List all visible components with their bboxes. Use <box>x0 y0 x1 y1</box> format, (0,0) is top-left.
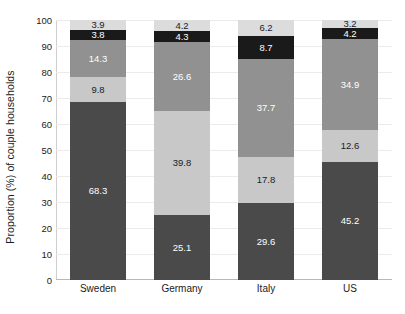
y-axis-tick-label: 100 <box>26 15 52 26</box>
bar-segment-value-label: 12.6 <box>341 141 360 151</box>
bar-segment-value-label: 3.9 <box>91 20 104 30</box>
bar-segment[interactable]: 3.2 <box>322 20 378 28</box>
y-axis-tick-label: 10 <box>26 249 52 260</box>
y-axis-tick-label: 80 <box>26 67 52 78</box>
bar-segment-value-label: 37.7 <box>257 103 276 113</box>
bar-segment-value-label: 25.1 <box>173 243 192 253</box>
bar-segment-value-label: 39.8 <box>173 158 192 168</box>
bar-segment[interactable]: 3.8 <box>70 30 126 40</box>
bar-segment-value-label: 4.3 <box>175 32 188 42</box>
y-axis-tick-label: 40 <box>26 171 52 182</box>
y-axis-tick-label: 90 <box>26 41 52 52</box>
bar-segment[interactable]: 14.3 <box>70 40 126 77</box>
plot-area: 68.39.814.33.83.925.139.826.64.34.229.61… <box>56 20 392 280</box>
bar-segment[interactable]: 37.7 <box>238 59 294 157</box>
y-axis-tick-label: 50 <box>26 145 52 156</box>
bar-segment[interactable]: 4.2 <box>154 20 210 31</box>
x-axis-tick-labels: SwedenGermanyItalyUS <box>56 283 392 301</box>
bar-segment-value-label: 34.9 <box>341 80 360 90</box>
bar-segment[interactable]: 4.3 <box>154 31 210 42</box>
y-axis-tick-label: 70 <box>26 93 52 104</box>
bar-segment-value-label: 8.7 <box>259 43 272 53</box>
stacked-bar-chart: Proportion (%) of couple households 0102… <box>0 0 405 314</box>
bar-segment[interactable]: 4.2 <box>322 28 378 39</box>
bar-segment-value-label: 14.3 <box>89 54 108 64</box>
bar-segment-value-label: 45.2 <box>341 216 360 226</box>
bar-segment[interactable]: 12.6 <box>322 130 378 163</box>
y-axis-tick-label: 0 <box>26 275 52 286</box>
x-axis-tick-label: Italy <box>257 283 275 294</box>
bar-segment[interactable]: 17.8 <box>238 157 294 203</box>
bar-segment-value-label: 4.2 <box>343 29 356 39</box>
bar-segment-value-label: 9.8 <box>91 85 104 95</box>
bar-series-container: 68.39.814.33.83.925.139.826.64.34.229.61… <box>56 20 392 280</box>
bar-segment-value-label: 29.6 <box>257 237 276 247</box>
x-axis-tick-label: Sweden <box>80 283 116 294</box>
bar-segment-value-label: 3.8 <box>91 30 104 40</box>
y-axis-tick-label: 30 <box>26 197 52 208</box>
x-axis-tick-label: Germany <box>161 283 202 294</box>
bar-group[interactable]: 25.139.826.64.34.2 <box>154 20 210 280</box>
bar-segment-value-label: 26.6 <box>173 72 192 82</box>
bar-group[interactable]: 29.617.837.78.76.2 <box>238 20 294 280</box>
y-axis-tick-label: 60 <box>26 119 52 130</box>
bar-segment[interactable]: 45.2 <box>322 162 378 280</box>
bar-group[interactable]: 45.212.634.94.23.2 <box>322 20 378 280</box>
bar-segment-value-label: 3.2 <box>343 20 356 28</box>
bar-group[interactable]: 68.39.814.33.83.9 <box>70 20 126 280</box>
y-axis-tick-label: 20 <box>26 223 52 234</box>
bar-segment[interactable]: 3.9 <box>70 20 126 30</box>
y-axis-tick-labels: 0102030405060708090100 <box>22 20 52 280</box>
bar-segment[interactable]: 39.8 <box>154 111 210 214</box>
bar-segment-value-label: 4.2 <box>175 21 188 31</box>
bar-segment[interactable]: 29.6 <box>238 203 294 280</box>
bar-segment-value-label: 17.8 <box>257 175 276 185</box>
bar-segment[interactable]: 6.2 <box>238 20 294 36</box>
x-axis-tick-label: US <box>343 283 357 294</box>
y-axis-title: Proportion (%) of couple households <box>0 0 20 314</box>
bar-segment[interactable]: 9.8 <box>70 77 126 102</box>
bar-segment[interactable]: 8.7 <box>238 36 294 59</box>
bar-segment-value-label: 6.2 <box>259 23 272 33</box>
bar-segment-value-label: 68.3 <box>89 186 108 196</box>
bar-segment[interactable]: 26.6 <box>154 42 210 111</box>
bar-segment[interactable]: 68.3 <box>70 102 126 280</box>
bar-segment[interactable]: 25.1 <box>154 215 210 280</box>
bar-segment[interactable]: 34.9 <box>322 39 378 130</box>
